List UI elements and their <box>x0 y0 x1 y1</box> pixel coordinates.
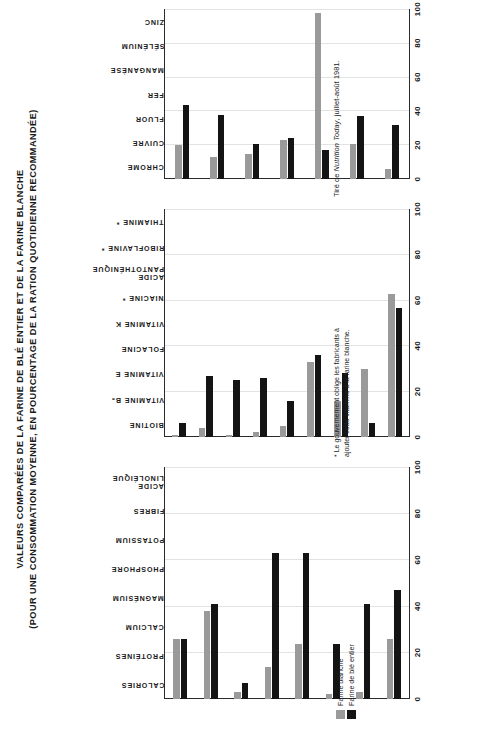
legend-label-farine-ble-entier: Farine de blé entier <box>347 644 356 706</box>
panel-mineraux-plot <box>164 9 410 179</box>
bar <box>394 590 401 699</box>
bar-group <box>339 10 374 179</box>
panel-vitamines-plot-wrap <box>164 209 410 467</box>
bar <box>242 683 249 699</box>
category-label-cell: ACIDEPANTOTHÉNIQUE <box>52 260 164 285</box>
footnote-asterisk: * Le gouvernement oblige les fabricants … <box>332 307 351 457</box>
category-label-cell: PHOSPHORE <box>52 554 164 583</box>
category-label: CALCIUM <box>125 622 164 631</box>
axis-tick-label: 80 <box>413 38 422 48</box>
bar-group <box>219 210 246 437</box>
bar-rows <box>165 210 409 437</box>
bar <box>183 105 190 179</box>
category-label: BIOTINE <box>129 420 164 429</box>
category-label-cell: FOLACINE <box>52 336 164 361</box>
panel-macronutriments-category-labels: CALORIESPROTÉINESCALCIUMMAGNÉSIUMPHOSPHO… <box>52 467 164 729</box>
bar <box>210 157 217 179</box>
bar <box>315 355 322 437</box>
bar-rows <box>165 10 409 179</box>
panel-mineraux-plot-wrap <box>164 9 410 209</box>
category-label: MAGNÉSIUM <box>112 593 164 602</box>
chart-legend: Farine blanche Farine de blé entier <box>336 644 356 719</box>
panel-macronutriments-plot-wrap <box>164 467 410 729</box>
bar <box>245 154 252 179</box>
category-label-cell: VITAMINE E <box>52 361 164 386</box>
axis-tick-label: 100 <box>413 460 422 474</box>
category-label: FIBRES <box>133 506 164 515</box>
bar <box>179 423 186 437</box>
bar <box>280 140 287 179</box>
bar-group <box>374 10 409 179</box>
category-label: CHROME <box>127 162 164 171</box>
category-label: VITAMINE K <box>115 319 164 328</box>
category-label: THIAMINE * <box>116 217 164 226</box>
category-label-cell: MAGNÉSIUM <box>52 583 164 612</box>
axis-tick-label: 80 <box>413 509 422 519</box>
bar <box>361 369 368 437</box>
bar <box>392 125 399 179</box>
bar <box>253 432 260 437</box>
bar-group <box>226 468 257 699</box>
source-note: Tiré de Nutrition Today, juillet-août 19… <box>332 60 341 197</box>
category-label: ACIDEPANTOTHÉNIQUE <box>92 264 164 281</box>
chart-title: VALEURS COMPARÉES DE LA FARINE DE BLÉ EN… <box>14 19 40 719</box>
chart-title-line-2: (POUR UNE CONSOMMATION MOYENNE, EN POURC… <box>27 19 40 719</box>
bar <box>173 639 180 699</box>
category-label: VITAMINE E <box>115 369 164 378</box>
category-label: POTASSIUM <box>115 535 164 544</box>
bar <box>356 692 363 699</box>
legend-item-farine-blanche: Farine blanche <box>336 644 345 719</box>
category-label-cell: CUIVRE <box>52 130 164 154</box>
source-note-suffix: , juillet-août 1981. <box>332 60 341 120</box>
category-label: NIACINE * <box>122 293 164 302</box>
source-note-publication: Nutrition Today <box>332 120 341 171</box>
bar <box>260 378 267 437</box>
bar <box>272 553 279 699</box>
bar-group <box>165 10 200 179</box>
bar-group <box>287 468 318 699</box>
bar <box>387 639 394 699</box>
category-label-cell: NIACINE * <box>52 285 164 310</box>
bar-group <box>246 210 273 437</box>
bar <box>204 611 211 699</box>
panel-mineraux-axis: 020406080100 <box>410 9 432 179</box>
axis-tick-label: 0 <box>413 435 422 440</box>
axis-tick-label: 60 <box>413 555 422 565</box>
bar-group <box>301 210 328 437</box>
chart-page: VALEURS COMPARÉES DE LA FARINE DE BLÉ EN… <box>0 0 485 737</box>
bar <box>175 145 182 179</box>
bar <box>385 169 392 179</box>
axis-tick-label: 80 <box>413 250 422 260</box>
bar <box>307 362 314 437</box>
source-note-prefix: Tiré de <box>332 171 341 197</box>
bar <box>211 604 218 699</box>
bar <box>396 308 403 437</box>
bar <box>199 428 206 437</box>
bar <box>369 423 376 437</box>
panel-mineraux: CHROMECUIVREFLUORFERMANGANÈSESÉLÉNIUMZIN… <box>52 9 444 209</box>
bar <box>388 294 395 437</box>
bar-group <box>273 210 300 437</box>
category-label-cell: RIBOFLAVINE * <box>52 234 164 259</box>
bar-group <box>196 468 227 699</box>
legend-item-farine-ble-entier: Farine de blé entier <box>347 644 356 719</box>
category-label-cell: ACIDELINOLÉIQUE <box>52 467 164 496</box>
bar <box>364 604 371 699</box>
bar <box>350 144 357 179</box>
bar <box>233 380 240 437</box>
category-label-cell: CALORIES <box>52 670 164 699</box>
legend-label-farine-blanche: Farine blanche <box>336 658 345 706</box>
bar <box>206 376 213 437</box>
bar-group <box>355 210 382 437</box>
category-label-cell: VITAMINE B₆ <box>52 386 164 411</box>
panel-mineraux-category-labels: CHROMECUIVREFLUORFERMANGANÈSESÉLÉNIUMZIN… <box>52 9 164 209</box>
category-label-cell: FLUOR <box>52 106 164 130</box>
category-label-cell: POTASSIUM <box>52 525 164 554</box>
bar-group <box>165 210 192 437</box>
category-label: CUIVRE <box>132 138 164 147</box>
axis-tick-label: 40 <box>413 341 422 351</box>
bar-group <box>379 468 410 699</box>
axis-tick-label: 40 <box>413 601 422 611</box>
category-label: CALORIES <box>121 680 164 689</box>
bar-group <box>257 468 288 699</box>
